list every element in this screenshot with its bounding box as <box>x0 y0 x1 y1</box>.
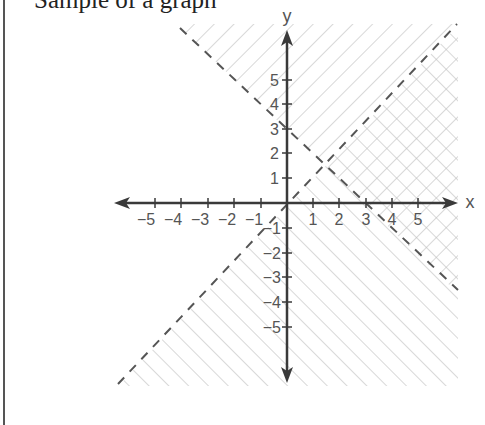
y-tick-label: 1 <box>270 170 279 187</box>
x-tick-label: 3 <box>362 211 371 228</box>
x-tick-label: −3 <box>191 211 209 228</box>
x-tick-label: 4 <box>388 211 397 228</box>
x-tick-label: −2 <box>218 211 236 228</box>
coordinate-plane: −5 −4 −3 −2 −1 1 2 3 4 5 x 5 4 3 2 <box>0 0 485 425</box>
x-tick-label: −1 <box>245 211 263 228</box>
x-tick-label: 5 <box>414 211 423 228</box>
y-tick-label: 3 <box>270 121 279 138</box>
y-tick-label: −3 <box>263 269 281 286</box>
y-tick-label: −1 <box>263 220 281 237</box>
y-tick-label: −4 <box>263 294 281 311</box>
y-tick-label: −2 <box>263 245 281 262</box>
x-tick-label: −4 <box>164 211 182 228</box>
y-tick-label: −5 <box>263 319 281 336</box>
x-tick-label: −5 <box>137 211 155 228</box>
y-tick-label: 5 <box>270 72 279 89</box>
x-tick-label: 1 <box>309 211 318 228</box>
y-tick-label: 4 <box>270 96 279 113</box>
x-axis-label: x <box>466 192 475 212</box>
y-tick-label: 2 <box>270 145 279 162</box>
x-tick-label: 2 <box>335 211 344 228</box>
y-axis-label: y <box>283 6 292 26</box>
